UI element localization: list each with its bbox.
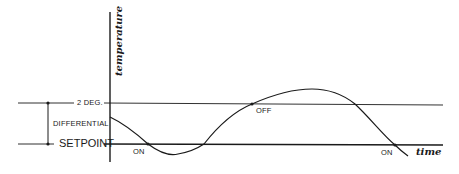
upper-limit-line — [104, 103, 443, 105]
on-label-2: ON — [381, 148, 393, 157]
off-label: OFF — [256, 106, 272, 115]
temperature-curve — [110, 89, 408, 156]
setpoint-line — [104, 144, 443, 145]
on-point-2 — [393, 143, 396, 146]
y-axis-label: temperature — [113, 6, 124, 76]
x-axis-label: time — [416, 146, 441, 157]
on-label-1: ON — [133, 147, 145, 156]
differential-label: DIFFERENTIAL — [53, 119, 109, 128]
upper-limit-label: 2 DEG. — [77, 98, 103, 107]
on-point-1 — [146, 142, 149, 145]
setpoint-label: SETPOINT — [59, 137, 114, 149]
off-point — [250, 102, 253, 105]
